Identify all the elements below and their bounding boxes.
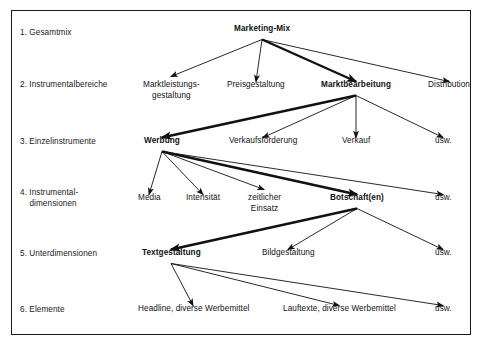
node-botschaften: Botschaft(en) xyxy=(330,193,384,204)
diagram-frame xyxy=(11,10,471,335)
node-preisgestaltung: Preisgestaltung xyxy=(227,80,285,91)
node-verkauf: Verkauf xyxy=(342,136,370,147)
row-label-2: 2. Instrumentalbereiche xyxy=(20,80,107,91)
node-media: Media xyxy=(138,193,161,204)
node-headline-werbemittel: Headline, diverse Werbemittel xyxy=(138,304,249,315)
node-usw-6: usw. xyxy=(435,304,452,315)
row-label-6: 6. Elemente xyxy=(20,305,65,316)
row-label-5: 5. Unterdimensionen xyxy=(20,249,97,260)
node-usw-3: usw. xyxy=(435,136,452,147)
node-usw-4: usw. xyxy=(435,193,452,204)
row-label-3: 3. Einzelinstrumente xyxy=(20,137,96,148)
node-intensitaet: Intensität xyxy=(186,193,220,204)
node-verkaufsfoerderung: Verkaufsförderung xyxy=(229,136,297,147)
node-marktbearbeitung: Marktbearbeitung xyxy=(321,80,391,91)
node-marketing-mix: Marketing-Mix xyxy=(234,24,290,35)
node-bildgestaltung: Bildgestaltung xyxy=(262,248,315,259)
node-marktleistung: Marktleistungs- gestaltung xyxy=(143,80,200,101)
node-werbung: Werbung xyxy=(144,136,180,147)
node-usw-5: usw. xyxy=(435,248,452,259)
node-zeitlicher-einsatz: zeitlicher Einsatz xyxy=(248,193,281,214)
row-label-4: 4. Instrumental- dimensionen xyxy=(20,188,78,209)
node-lauftexte-werbemittel: Lauftexte, diverse Werbemittel xyxy=(283,304,396,315)
diagram-canvas: 1. Gesamtmix2. Instrumentalbereiche3. Ei… xyxy=(0,0,484,350)
node-distribution: Distribution xyxy=(428,80,470,91)
row-label-1: 1. Gesamtmix xyxy=(20,28,71,39)
node-textgestaltung: Textgestaltung xyxy=(142,248,201,259)
